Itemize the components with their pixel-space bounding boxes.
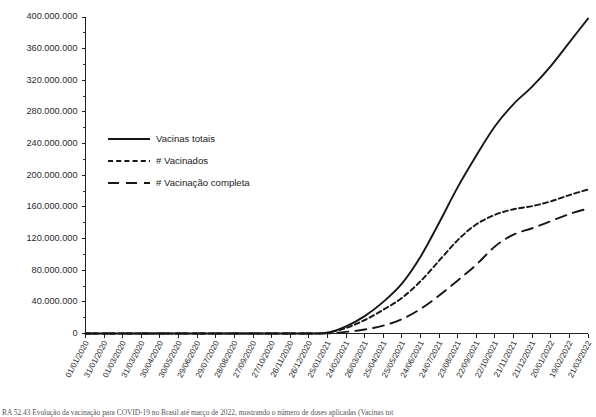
line-chart-svg: 040.000.00080.000.000120.000.000160.000.… [0, 0, 596, 417]
y-axis-ticks [82, 17, 86, 334]
y-tick-label: 120.000.000 [26, 233, 77, 243]
y-tick-label: 280.000.000 [26, 106, 77, 116]
legend-label: # Vacinação completa [156, 177, 250, 188]
y-tick-label: 360.000.000 [26, 43, 77, 53]
y-tick-label: 160.000.000 [26, 201, 77, 211]
figure-caption: RA 52.43 Evolução da vacinação para COVI… [0, 408, 596, 417]
y-tick-label: 400.000.000 [26, 11, 77, 21]
x-axis-tick-labels: 01/01/202031/01/202001/03/202031/03/2020… [64, 339, 594, 379]
y-axis-tick-labels: 040.000.00080.000.000120.000.000160.000.… [26, 11, 77, 338]
legend-label: # Vacinados [156, 155, 208, 166]
legend-label: Vacinas totais [156, 133, 215, 144]
series-line-long-dash [86, 208, 589, 333]
y-tick-label: 40.000.000 [32, 296, 78, 306]
y-tick-label: 80.000.000 [32, 265, 78, 275]
y-tick-label: 0 [72, 328, 77, 338]
chart-figure: 040.000.00080.000.000120.000.000160.000.… [0, 0, 596, 417]
chart-legend: Vacinas totais# Vacinados# Vacinação com… [108, 133, 250, 188]
y-tick-label: 320.000.000 [26, 75, 77, 85]
series-line-dashed [86, 189, 589, 333]
y-tick-label: 240.000.000 [26, 138, 77, 148]
y-tick-label: 200.000.000 [26, 170, 77, 180]
